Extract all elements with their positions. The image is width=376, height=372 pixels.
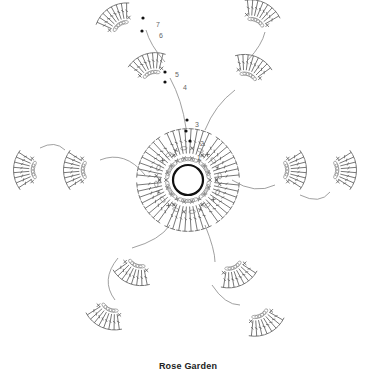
round-label-4: 4	[183, 84, 187, 91]
round-label-1: 1	[197, 154, 201, 161]
round-1-single-crochet	[164, 156, 211, 203]
diagram-caption: Rose Garden	[0, 361, 376, 371]
round-labels: 1234567	[156, 21, 204, 161]
outer-petals	[13, 0, 356, 336]
center-ring	[173, 165, 203, 195]
round-label-3: 3	[195, 121, 199, 128]
round-label-7: 7	[156, 21, 160, 28]
round-label-5: 5	[175, 71, 179, 78]
crochet-diagram: 1234567	[0, 0, 376, 372]
round-label-2: 2	[200, 140, 204, 147]
inner-petals	[137, 129, 240, 232]
round-2	[154, 146, 222, 214]
round-label-6: 6	[159, 32, 163, 39]
